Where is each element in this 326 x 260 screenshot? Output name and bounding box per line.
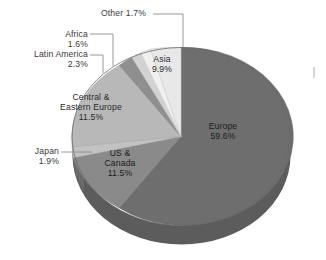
slice-label-central-eastern-europe: Central & Eastern Europe 11.5% (49, 93, 133, 122)
slice-label-other-text: Other 1.7% (101, 9, 146, 19)
slice-label-latin-america: Latin America 2.3% (2, 50, 88, 70)
page-edge-artifact (313, 67, 315, 78)
leader-line-latin-america (90, 55, 103, 73)
slice-label-latin-america-value: 2.3% (2, 60, 88, 70)
slice-label-asia: Asia 9.9% (136, 55, 188, 75)
slice-label-asia-value: 9.9% (136, 65, 188, 75)
leader-line-africa (90, 34, 113, 66)
pie-chart-figure: Other 1.7% Africa 1.6% Latin America 2.3… (0, 0, 326, 260)
slice-label-us-canada: US & Canada 11.5% (91, 149, 149, 178)
slice-label-europe: Europe 59.6% (196, 122, 250, 142)
slice-label-cee-value: 11.5% (49, 113, 133, 123)
slice-label-africa: Africa 1.6% (32, 30, 88, 50)
leader-line-other (153, 14, 183, 47)
slice-label-europe-value: 59.6% (196, 132, 250, 142)
slice-label-japan-value: 1.9% (7, 157, 59, 167)
slice-label-other: Other 1.7% (101, 9, 146, 19)
slice-label-japan: Japan 1.9% (7, 147, 59, 167)
slice-label-us-canada-value: 11.5% (91, 169, 149, 179)
